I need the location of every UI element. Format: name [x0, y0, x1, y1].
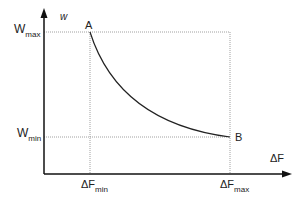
x-axis-label: ΔF	[270, 152, 284, 164]
y-axis-label: w	[60, 11, 68, 22]
wmin-label: Wmin	[17, 126, 41, 143]
curve	[90, 32, 230, 137]
diagram: w ΔF Wmax Wmin ΔFmin ΔFmax A B	[0, 0, 301, 197]
x-axis-arrow-icon	[282, 171, 292, 178]
dfmin-label: ΔFmin	[81, 178, 108, 194]
y-axis-arrow-icon	[41, 8, 48, 18]
wmax-label: Wmax	[14, 22, 40, 39]
dfmax-label: ΔFmax	[220, 178, 249, 194]
point-b-label: B	[235, 131, 242, 143]
point-a-label: A	[85, 19, 93, 31]
